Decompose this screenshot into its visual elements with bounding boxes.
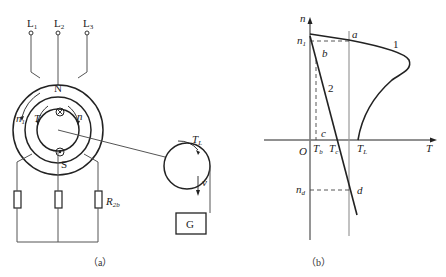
curve-2-label: 2: [328, 82, 334, 94]
velocity-label: v: [202, 176, 207, 188]
conductor-out-of-page-icon: [56, 148, 64, 156]
point-c-label: c: [321, 127, 326, 139]
figure-canvas: L1 L2 L3 N S: [0, 0, 446, 277]
terminal-l2-label: L2: [54, 17, 65, 31]
wire-l1: [31, 35, 40, 78]
point-a-label: a: [352, 28, 358, 40]
curve-1-label: 1: [393, 38, 399, 50]
point-d-label: d: [357, 184, 363, 196]
terminal-l1-label: L1: [27, 17, 38, 31]
figure-b-caption: （b）: [306, 257, 331, 268]
resistor-left: [14, 191, 21, 208]
terminal-l2: L2: [54, 17, 65, 85]
tb-label: Tb: [313, 142, 323, 156]
nd-label: nd: [296, 183, 306, 197]
terminal-l2-node: [56, 31, 60, 35]
pole-south-label: S: [61, 158, 67, 170]
resistor-label: R2b: [105, 195, 120, 209]
terminal-l3-node: [85, 31, 89, 35]
terminal-l1-node: [29, 31, 33, 35]
rotor-speed-label: n: [77, 110, 83, 122]
weight-label: G: [186, 218, 194, 230]
n1-label: n1: [297, 34, 306, 48]
origin-label: O: [299, 145, 307, 157]
load-torque-arrowhead-icon: [196, 150, 200, 155]
t-axis-label: T: [426, 142, 433, 154]
curve-2-rheostatic: [310, 36, 357, 215]
rotor-lead-left: [17, 154, 32, 180]
load-torque-label: TL: [192, 133, 202, 147]
figure-a-motor-hoist: L1 L2 L3 N S: [13, 17, 210, 268]
resistor-right: [95, 191, 102, 208]
terminal-l3: L3: [78, 17, 94, 78]
n-axis-arrow-icon: [308, 17, 313, 24]
resistor-middle: [55, 191, 62, 208]
point-b-label: b: [322, 47, 328, 59]
field-speed-label: n1: [16, 112, 25, 126]
n-axis-label: n: [300, 12, 306, 24]
figure-a-caption: （a）: [88, 257, 112, 268]
velocity-arrowhead-icon: [196, 190, 200, 196]
tl-label: TL: [357, 142, 367, 156]
figure-b-characteristics: n n1 a b 1 2 c O Tb Tc TL T nd d （b）: [264, 12, 437, 268]
terminal-l1: L1: [27, 17, 40, 78]
rotor-lead-right: [84, 154, 98, 180]
wire-l3: [78, 35, 87, 78]
torque-label: T: [34, 112, 41, 124]
pole-north-label: N: [54, 82, 62, 94]
terminal-l3-label: L3: [83, 17, 94, 31]
